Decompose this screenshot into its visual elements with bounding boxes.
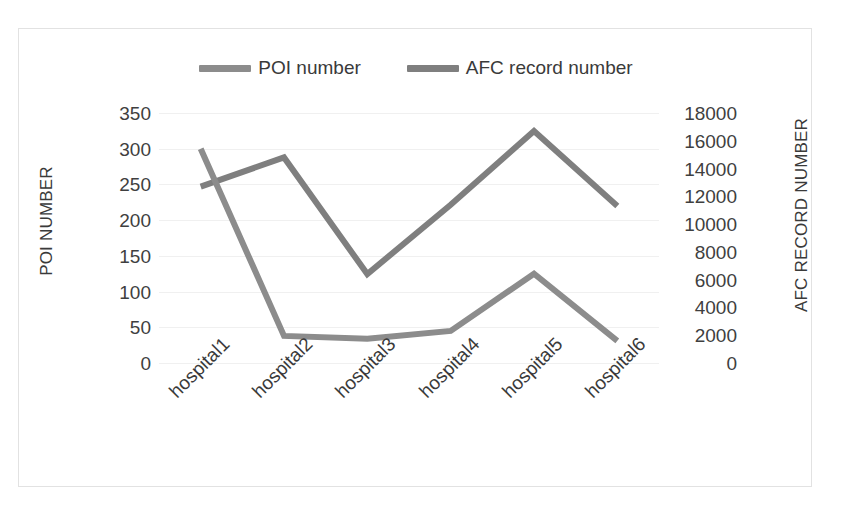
series-line-poi bbox=[201, 149, 618, 341]
category-axis-labels: hospital1hospital2hospital3hospital4hosp… bbox=[159, 369, 659, 479]
plot-area: POI NUMBER AFC RECORD NUMBER 35030025020… bbox=[19, 29, 813, 488]
chart-frame: POI number AFC record number POI NUMBER … bbox=[18, 28, 812, 487]
series-line-afc bbox=[201, 131, 618, 274]
